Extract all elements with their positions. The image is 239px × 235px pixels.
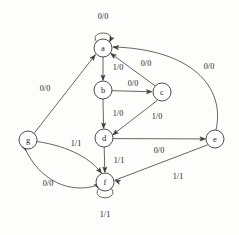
state-node-b[interactable]: b	[94, 81, 112, 99]
state-label-b: b	[101, 85, 105, 95]
state-node-d[interactable]: d	[95, 129, 113, 147]
edge-b-to-c	[112, 91, 150, 92]
state-node-a[interactable]: a	[94, 39, 112, 57]
edge-label-b-to-c: 0/0	[128, 79, 138, 88]
edge-label-a-to-a: 0/0	[98, 12, 108, 21]
edge-f-to-g	[26, 150, 97, 189]
state-node-e[interactable]: e	[206, 130, 224, 148]
state-label-a: a	[101, 43, 105, 53]
state-diagram: abcdefg 0/01/00/01/00/01/00/01/10/01/11/…	[0, 0, 239, 235]
edge-g-to-a	[34, 55, 96, 134]
edge-label-g-to-a: 0/0	[40, 84, 50, 93]
state-node-g[interactable]: g	[19, 131, 37, 149]
edge-label-a-to-b: 1/0	[113, 63, 123, 72]
state-node-f[interactable]: f	[96, 173, 114, 191]
edge-label-f-to-f: 1/1	[100, 210, 110, 219]
state-label-c: c	[160, 87, 164, 97]
edge-labels-layer: 0/01/00/01/00/01/00/01/10/01/11/10/00/01…	[40, 12, 214, 219]
edge-label-c-to-a: 0/0	[141, 59, 151, 68]
state-label-e: e	[213, 134, 217, 144]
edge-label-f-to-g: 0/0	[43, 179, 53, 188]
edge-b-to-d	[103, 99, 104, 128]
fsm-canvas: abcdefg 0/01/00/01/00/01/00/01/10/01/11/…	[0, 0, 239, 235]
edge-label-g-to-f: 1/1	[71, 139, 81, 148]
edge-label-c-to-d: 1/0	[152, 112, 162, 121]
edge-g-to-f	[37, 142, 102, 173]
edge-label-b-to-d: 1/0	[113, 109, 123, 118]
edge-label-d-to-f: 1/1	[114, 156, 124, 165]
edge-label-e-to-a: 0/0	[204, 62, 214, 71]
edge-label-d-to-e: 0/0	[154, 146, 164, 155]
state-label-f: f	[104, 177, 107, 187]
state-node-c[interactable]: c	[153, 83, 171, 101]
edge-label-e-to-f: 1/1	[173, 172, 183, 181]
